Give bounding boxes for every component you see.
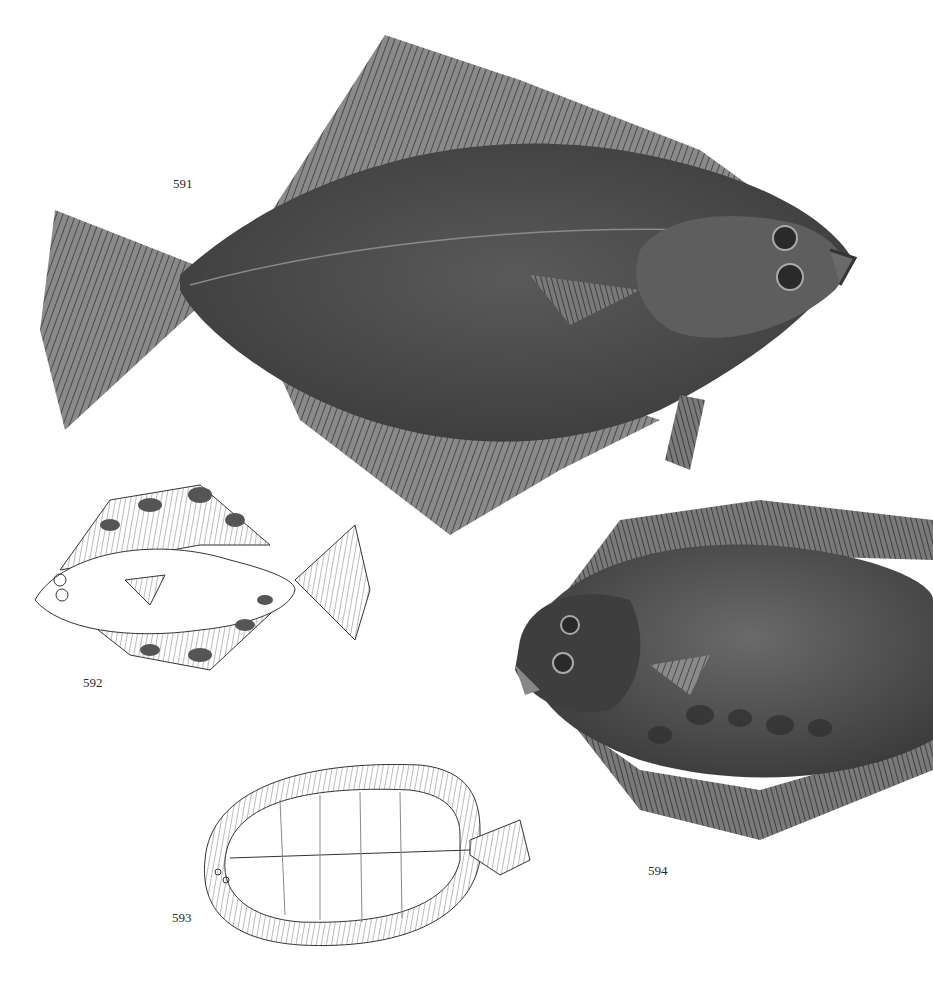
plate-illustrations: [0, 0, 933, 989]
fish-592: [35, 485, 370, 670]
figure-label-591: 591: [173, 176, 193, 192]
fish-594: [515, 500, 933, 840]
specimen-plate: 591 592 593 594: [0, 0, 933, 989]
figure-label-592: 592: [83, 675, 103, 691]
figure-label-594: 594: [648, 863, 668, 879]
fish-593: [204, 764, 530, 945]
fish-591: [40, 35, 855, 535]
figure-label-593: 593: [172, 910, 192, 926]
